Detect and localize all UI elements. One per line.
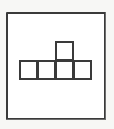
outer-frame <box>6 12 106 120</box>
figure-root <box>0 0 114 129</box>
